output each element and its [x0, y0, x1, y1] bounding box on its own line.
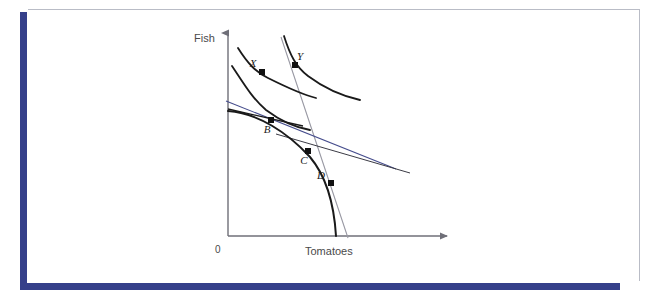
data-point-marker-x [259, 69, 265, 75]
ppf-indifference-figure: XYBCD Fish Tomatoes 0 [0, 0, 650, 303]
data-point-marker-y [292, 62, 298, 68]
tangent-at-c [276, 134, 410, 173]
data-point-label-c: C [300, 154, 308, 166]
data-point-label-d: D [316, 169, 325, 181]
page-canvas: XYBCD Fish Tomatoes 0 [0, 0, 650, 303]
data-point-marker-d [328, 180, 334, 186]
origin-label: 0 [215, 244, 221, 255]
price-line-gray [281, 37, 348, 238]
data-point-label-b: B [264, 123, 271, 135]
data-point-label-y: Y [297, 50, 305, 62]
x-axis-label: Tomatoes [305, 245, 353, 257]
y-axis-label: Fish [194, 32, 215, 44]
points-group: XYBCD [249, 50, 334, 186]
data-point-label-x: X [249, 57, 258, 69]
